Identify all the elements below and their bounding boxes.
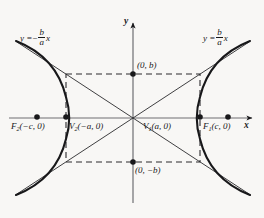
- point-focus-right: [225, 114, 231, 120]
- hyperbola-figure: y x y =−bax y =bax F2(−c, 0) V2(−a, 0) V…: [0, 0, 264, 218]
- asymptote-right-numerator: b: [216, 28, 223, 37]
- focus-left-coords: (−c, 0): [20, 121, 45, 131]
- co-vertex-bottom-label: (0, −b): [135, 166, 161, 175]
- asymptote-left-lead: y =: [20, 33, 32, 43]
- asymptote-right-label: y =bax: [203, 28, 228, 47]
- point-co-vertex-top: [130, 71, 136, 77]
- x-axis-label: x: [244, 121, 249, 131]
- point-focus-left: [34, 114, 40, 120]
- vertex-right-coords: (a, 0): [152, 121, 172, 131]
- asymptote-right-trail: x: [224, 33, 228, 43]
- point-co-vertex-bottom: [130, 159, 136, 165]
- asymptote-right-lead: y =: [203, 33, 215, 43]
- asymptote-right-fraction: ba: [216, 28, 223, 47]
- asymptote-left-fraction: ba: [38, 28, 45, 47]
- asymptote-left-trail: x: [46, 33, 50, 43]
- focus-right-label: F1(c, 0): [203, 122, 231, 132]
- vertex-left-coords: (−a, 0): [78, 121, 104, 131]
- asymptote-right-denominator: a: [216, 37, 223, 47]
- focus-left-label: F2(−c, 0): [11, 122, 45, 132]
- asymptote-left-denominator: a: [38, 37, 45, 47]
- focus-right-coords: (c, 0): [212, 121, 231, 131]
- asymptote-left-label: y =−bax: [20, 28, 50, 47]
- vertex-right-label: V1(a, 0): [143, 122, 171, 132]
- asymptote-left-sign: −: [32, 33, 37, 43]
- y-axis-label: y: [124, 17, 128, 27]
- co-vertex-top-label: (0, b): [137, 61, 157, 70]
- point-vertex-right: [197, 114, 203, 120]
- vertex-left-label: V2(−a, 0): [69, 122, 103, 132]
- point-vertex-left: [63, 114, 69, 120]
- asymptote-left-numerator: b: [38, 28, 45, 37]
